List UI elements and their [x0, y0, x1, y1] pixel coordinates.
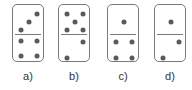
pip	[19, 54, 24, 59]
pip	[65, 12, 70, 17]
pip	[114, 56, 119, 61]
pip	[161, 56, 166, 61]
pip	[81, 40, 86, 45]
pip	[177, 40, 182, 45]
label-c: c)	[107, 70, 139, 82]
domino-b	[58, 4, 90, 62]
pip	[169, 20, 174, 25]
pip	[65, 56, 70, 61]
pip	[19, 39, 24, 44]
pip	[35, 12, 40, 17]
label-d: d)	[154, 70, 186, 82]
domino-c	[107, 4, 139, 62]
pip	[73, 20, 78, 25]
pip	[130, 56, 135, 61]
domino-d	[154, 4, 186, 62]
pip	[19, 28, 24, 33]
domino-divider	[157, 34, 183, 35]
pip	[130, 40, 135, 45]
domino-divider	[61, 34, 87, 35]
pip	[65, 28, 70, 33]
domino-divider	[15, 34, 41, 35]
pip	[114, 40, 119, 45]
pip	[81, 28, 86, 33]
domino-divider	[110, 34, 136, 35]
pip	[122, 20, 127, 25]
pip	[35, 54, 40, 59]
label-a: a)	[12, 70, 44, 82]
domino-a	[12, 4, 44, 62]
pip	[35, 39, 40, 44]
label-b: b)	[58, 70, 90, 82]
pip	[27, 20, 32, 25]
pip	[81, 12, 86, 17]
